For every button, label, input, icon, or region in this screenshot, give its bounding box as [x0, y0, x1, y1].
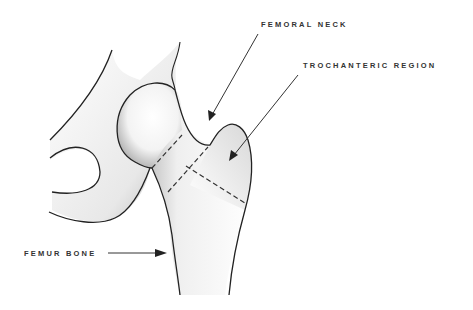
femoral-neck-arrow: [208, 34, 258, 121]
femur-bone-label: FEMUR BONE: [24, 249, 96, 258]
femoral-neck-label: FEMORAL NECK: [261, 20, 348, 29]
trochanteric-region-label: TROCHANTERIC REGION: [303, 61, 436, 70]
hip-femur-diagram: [0, 0, 473, 310]
femur-bone-arrow: [108, 249, 167, 257]
trochanteric-region-arrow: [229, 75, 298, 161]
